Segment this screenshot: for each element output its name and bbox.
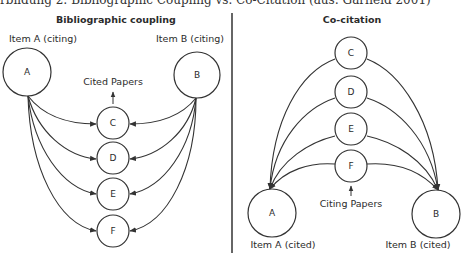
item-b-cited-label: Item B (cited) bbox=[385, 239, 450, 250]
citing-papers-label: Citing Papers bbox=[320, 198, 383, 209]
node-a-label: A bbox=[24, 67, 31, 77]
node-d-label: D bbox=[348, 87, 355, 97]
citation-diagram: Bibliographic coupling Item A (citing) I… bbox=[0, 0, 461, 253]
node-f-label: F bbox=[110, 226, 115, 236]
node-e-label: E bbox=[110, 189, 116, 199]
node-c-label: C bbox=[348, 48, 354, 58]
cited-papers-label: Cited Papers bbox=[83, 76, 143, 87]
node-b-label: B bbox=[194, 70, 200, 80]
node-e-label: E bbox=[348, 124, 354, 134]
node-b-label: B bbox=[433, 209, 439, 219]
item-a-citing-label: Item A (citing) bbox=[9, 33, 77, 44]
node-c-label: C bbox=[110, 118, 116, 128]
bibliographic-coupling-panel: Bibliographic coupling Item A (citing) I… bbox=[3, 14, 224, 247]
left-panel-title: Bibliographic coupling bbox=[56, 14, 176, 25]
right-panel-title: Co-citation bbox=[323, 14, 382, 25]
node-a-label: A bbox=[269, 208, 276, 218]
item-a-cited-label: Item A (cited) bbox=[250, 239, 315, 250]
node-d-label: D bbox=[110, 153, 117, 163]
node-f-label: F bbox=[348, 161, 353, 171]
item-b-citing-label: Item B (citing) bbox=[156, 33, 224, 44]
co-citation-panel: Co-citation C D E F Citing Papers A B It… bbox=[248, 14, 460, 250]
